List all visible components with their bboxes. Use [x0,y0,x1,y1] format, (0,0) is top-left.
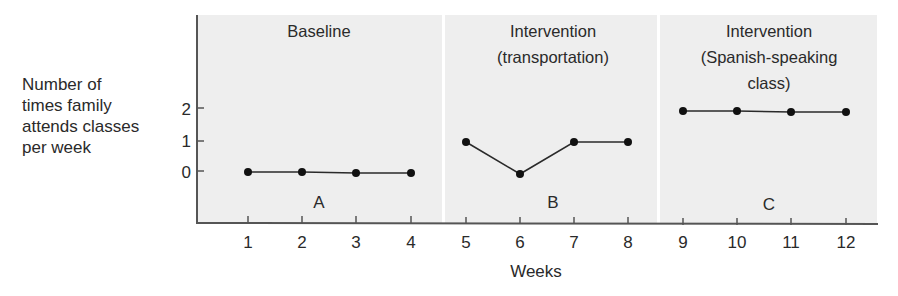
x-tick-label: 9 [678,233,687,252]
x-tick-label: 3 [351,233,360,252]
phase-panel-a [197,15,442,223]
x-tick-label: 7 [569,233,578,252]
chart: Baseline Intervention (transportation) I… [0,0,898,296]
phase-title-b-line2: (transportation) [497,48,609,66]
phase-title-c-line2: (Spanish-speaking [701,48,838,66]
x-tick-label: 10 [728,233,747,252]
x-tick-label: 2 [297,233,306,252]
y-tick-label-0: 0 [182,163,191,182]
phase-title-a: Baseline [287,22,350,40]
y-tick-label-1: 1 [182,132,191,151]
x-tick-label: 8 [623,233,632,252]
phase-panel-c [660,15,877,223]
phase-title-c-line3: class) [747,74,790,92]
x-tick-label: 11 [782,233,800,252]
x-axis-label: Weeks [510,262,562,281]
phase-letter-a: A [313,193,325,212]
phase-letter-c: C [763,195,775,214]
x-tick-label: 6 [515,233,524,252]
x-tick-label: 5 [461,233,470,252]
x-tick-label: 1 [243,233,252,252]
phase-title-b-line1: Intervention [510,22,596,40]
x-axis [196,223,878,224]
phase-panel-b [445,15,657,223]
y-tick-label-2: 2 [182,100,191,119]
x-tick-label: 12 [837,233,856,252]
phase-letter-b: B [547,193,558,212]
x-tick-label: 4 [406,233,415,252]
phase-title-c-line1: Intervention [726,22,812,40]
